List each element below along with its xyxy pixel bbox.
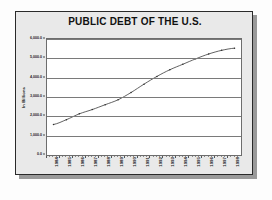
x-axis-tick <box>98 156 99 158</box>
x-axis-minor-tick <box>153 156 154 157</box>
y-axis-tick <box>43 76 45 77</box>
x-axis-minor-tick <box>69 156 70 157</box>
y-axis-tick <box>43 115 45 116</box>
data-point-marker <box>66 119 68 121</box>
data-point-marker <box>208 53 210 55</box>
x-axis-minor-tick <box>156 156 157 157</box>
y-axis-tick <box>43 57 45 58</box>
x-axis-tick <box>46 156 47 158</box>
x-axis-minor-tick <box>78 156 79 157</box>
x-axis-minor-tick <box>140 156 141 157</box>
x-axis-minor-tick <box>114 156 115 157</box>
y-axis-tick-label: 6,000.0 <box>30 36 42 40</box>
x-axis-tick-label: 1990 <box>132 157 137 167</box>
data-point-marker <box>117 99 119 101</box>
x-axis-minor-tick <box>182 156 183 157</box>
x-axis-minor-tick <box>185 156 186 157</box>
x-axis-minor-tick <box>230 156 231 157</box>
x-axis-minor-tick <box>75 156 76 157</box>
data-point-marker <box>169 69 171 71</box>
x-axis-minor-tick <box>101 156 102 157</box>
chart-frame: PUBLIC DEBT OF THE U.S. In Billions 0.01… <box>15 11 253 175</box>
x-axis-tick-label: 1989 <box>119 157 124 167</box>
x-axis-tick <box>175 156 176 158</box>
x-axis-tick <box>137 156 138 158</box>
x-axis-tick-label: 1998 <box>235 157 240 167</box>
x-axis-tick <box>188 156 189 158</box>
x-axis-minor-tick <box>166 156 167 157</box>
x-axis-minor-tick <box>82 156 83 157</box>
y-axis-tick-label: 5,000.0 <box>30 55 42 59</box>
x-axis-minor-tick <box>91 156 92 157</box>
y-axis-tick-labels: 0.01,000.02,000.03,000.04,000.05,000.06,… <box>16 38 45 156</box>
data-point-marker <box>234 47 236 49</box>
chart-title: PUBLIC DEBT OF THE U.S. <box>16 16 254 27</box>
x-axis-minor-tick <box>179 156 180 157</box>
x-axis-minor-tick <box>208 156 209 157</box>
x-axis-minor-tick <box>65 156 66 157</box>
x-axis-minor-tick <box>104 156 105 157</box>
x-axis-minor-tick <box>224 156 225 157</box>
x-axis-minor-tick <box>49 156 50 157</box>
x-axis-tick-label: 1995 <box>196 157 201 167</box>
x-axis-minor-tick <box>234 156 235 157</box>
gridline <box>47 58 241 59</box>
data-point-marker <box>92 109 94 111</box>
x-axis-minor-tick <box>159 156 160 157</box>
x-axis-minor-tick <box>52 156 53 157</box>
y-axis-tick <box>43 154 45 155</box>
x-axis-tick <box>149 156 150 158</box>
series-polyline <box>53 48 234 124</box>
gridline <box>47 39 241 40</box>
y-axis-tick <box>43 96 45 97</box>
x-axis-tick-label: 1992 <box>158 157 163 167</box>
gridline <box>47 136 241 137</box>
x-axis-minor-tick <box>107 156 108 157</box>
x-axis-minor-tick <box>221 156 222 157</box>
x-axis-minor-tick <box>62 156 63 157</box>
x-axis-tick <box>124 156 125 158</box>
x-axis-minor-tick <box>143 156 144 157</box>
y-axis-tick-label: 0.0 <box>37 152 42 156</box>
y-axis-tick-label: 3,000.0 <box>30 94 42 98</box>
x-axis-tick <box>59 156 60 158</box>
x-axis-minor-tick <box>133 156 134 157</box>
data-point-marker <box>130 92 132 94</box>
x-axis-tick-label: 1994 <box>183 157 188 167</box>
x-axis-tick-label: 1993 <box>170 157 175 167</box>
x-axis-tick-label: 1987 <box>93 157 98 167</box>
x-axis-tick <box>72 156 73 158</box>
x-axis-tick-label: 1985 <box>67 157 72 167</box>
y-axis-tick <box>43 134 45 135</box>
x-axis-minor-tick <box>88 156 89 157</box>
gridline <box>47 116 241 117</box>
data-point-marker <box>104 104 106 106</box>
x-axis-minor-tick <box>169 156 170 157</box>
chart-page: PUBLIC DEBT OF THE U.S. In Billions 0.01… <box>0 0 272 200</box>
x-axis-tick <box>85 156 86 158</box>
x-axis-minor-tick <box>120 156 121 157</box>
x-axis-minor-tick <box>195 156 196 157</box>
data-point-marker <box>79 113 81 115</box>
x-axis-tick-label: 1984 <box>54 157 59 167</box>
x-axis-minor-tick <box>204 156 205 157</box>
y-axis-tick <box>43 38 45 39</box>
y-axis-tick-label: 2,000.0 <box>30 113 42 117</box>
x-axis-minor-tick <box>56 156 57 157</box>
x-axis-minor-tick <box>192 156 193 157</box>
y-axis-tick-label: 4,000.0 <box>30 75 42 79</box>
x-axis-tick-label: 1996 <box>209 157 214 167</box>
data-point-marker <box>143 83 145 85</box>
x-axis-minor-tick <box>95 156 96 157</box>
y-axis-tick-label: 1,000.0 <box>30 133 42 137</box>
x-axis-minor-tick <box>146 156 147 157</box>
gridline <box>47 97 241 98</box>
x-axis-tick-label: 1997 <box>222 157 227 167</box>
x-axis-minor-tick <box>172 156 173 157</box>
x-axis-minor-tick <box>198 156 199 157</box>
plot-area <box>46 38 242 156</box>
x-axis-minor-tick <box>130 156 131 157</box>
x-axis-minor-tick <box>237 156 238 157</box>
x-axis-tick-label: 1986 <box>80 157 85 167</box>
x-axis-tick <box>111 156 112 158</box>
